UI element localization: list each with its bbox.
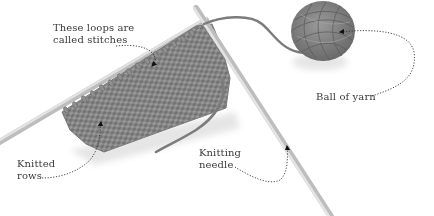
label-rows-line-1: Knitted [17,158,55,170]
label-stitches: These loops are called stitches [53,22,134,46]
ball-of-yarn [291,1,355,61]
label-ball-of-yarn: Ball of yarn [316,91,376,103]
label-ball-line-1: Ball of yarn [316,91,376,103]
label-stitches-line-2: called stitches [53,34,134,46]
leader-needle [235,146,287,182]
label-needle-line-1: Knitting [199,147,241,159]
label-stitches-line-1: These loops are [53,22,134,34]
knitting-diagram: These loops are called stitches Ball of … [0,0,434,216]
label-needle-line-2: needle [199,159,241,171]
label-knitting-needle: Knitting needle [199,147,241,171]
label-rows-line-2: rows [17,170,55,182]
label-knitted-rows: Knitted rows [17,158,55,182]
